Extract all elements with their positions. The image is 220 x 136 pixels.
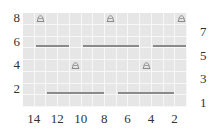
chart-cell [23, 95, 35, 107]
chart-cell [23, 60, 35, 72]
chart-cell [46, 25, 58, 37]
bobble-icon [106, 15, 115, 22]
column-label: 4 [140, 112, 162, 125]
chart-cell [105, 95, 117, 107]
chart-cell [164, 95, 176, 107]
chart-cell [58, 48, 70, 60]
chart-cell [117, 13, 129, 25]
bobble-icon [36, 15, 45, 22]
chart-cell [58, 72, 70, 84]
chart-cell [117, 48, 129, 60]
purl-line [36, 45, 69, 47]
chart-cell [140, 13, 152, 25]
chart-cell [140, 37, 152, 49]
chart-cell [164, 48, 176, 60]
row-label-left: 8 [6, 11, 20, 24]
column-label: 10 [70, 112, 92, 125]
chart-cell [93, 60, 105, 72]
chart-cell [70, 95, 82, 107]
chart-cell [70, 13, 82, 25]
bobble-icon [71, 62, 80, 69]
chart-cell [23, 84, 35, 96]
column-label: 2 [163, 112, 185, 125]
chart-cell [23, 72, 35, 84]
chart-cell [46, 95, 58, 107]
chart-cell [117, 60, 129, 72]
chart-cell [164, 13, 176, 25]
chart-cell [35, 84, 47, 96]
chart-cell [46, 48, 58, 60]
chart-cell [105, 25, 117, 37]
bobble-icon [142, 62, 151, 69]
chart-cell [35, 72, 47, 84]
chart-cell [93, 48, 105, 60]
chart-cell [82, 48, 94, 60]
purl-line [153, 45, 186, 47]
chart-cell [117, 25, 129, 37]
knitting-chart-grid [23, 13, 187, 107]
chart-cell [58, 60, 70, 72]
chart-cell [82, 25, 94, 37]
chart-cell [152, 13, 164, 25]
chart-cell [35, 25, 47, 37]
chart-cell [128, 95, 140, 107]
chart-cell [82, 13, 94, 25]
row-label-right: 7 [200, 25, 214, 38]
chart-cell [70, 72, 82, 84]
chart-cell [140, 72, 152, 84]
chart-cell [152, 60, 164, 72]
purl-line [83, 45, 140, 47]
chart-cell [93, 95, 105, 107]
chart-cell [175, 95, 187, 107]
chart-cell [58, 95, 70, 107]
chart-cell [175, 48, 187, 60]
chart-cell [128, 72, 140, 84]
bobble-icon [177, 15, 186, 22]
row-label-left: 6 [6, 35, 20, 48]
chart-cell [82, 60, 94, 72]
chart-cell [105, 72, 117, 84]
chart-cell [117, 72, 129, 84]
chart-cell [152, 48, 164, 60]
chart-cell [152, 95, 164, 107]
chart-cell [35, 95, 47, 107]
chart-cell [23, 37, 35, 49]
chart-cell [58, 13, 70, 25]
chart-cell [164, 25, 176, 37]
chart-cell [128, 13, 140, 25]
chart-cell [128, 48, 140, 60]
chart-cell [140, 95, 152, 107]
chart-cell [117, 95, 129, 107]
chart-cell [93, 13, 105, 25]
row-label-right: 3 [200, 72, 214, 85]
chart-cell [46, 60, 58, 72]
chart-cell [58, 25, 70, 37]
chart-cell [23, 48, 35, 60]
purl-line [47, 92, 104, 94]
chart-cell [70, 48, 82, 60]
chart-cell [175, 72, 187, 84]
chart-cell [82, 72, 94, 84]
chart-cell [82, 95, 94, 107]
row-label-left: 2 [6, 82, 20, 95]
row-label-right: 5 [200, 49, 214, 62]
chart-cell [23, 25, 35, 37]
chart-cell [46, 72, 58, 84]
column-label: 14 [23, 112, 45, 125]
chart-cell [46, 13, 58, 25]
chart-cell [105, 48, 117, 60]
column-label: 12 [46, 112, 68, 125]
chart-cell [93, 72, 105, 84]
chart-cell [93, 25, 105, 37]
chart-cell [70, 37, 82, 49]
row-label-right: 1 [200, 96, 214, 109]
chart-cell [175, 60, 187, 72]
chart-cell [70, 25, 82, 37]
chart-cell [152, 72, 164, 84]
chart-cell [175, 84, 187, 96]
chart-cell [164, 60, 176, 72]
chart-cell [23, 13, 35, 25]
row-label-left: 4 [6, 58, 20, 71]
chart-cell [35, 48, 47, 60]
chart-cell [140, 25, 152, 37]
